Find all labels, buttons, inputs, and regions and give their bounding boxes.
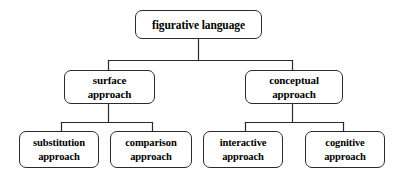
node-figurative-language-label: figurative language bbox=[152, 19, 245, 31]
node-substitution-approach: substitution approach bbox=[19, 131, 99, 168]
node-substitution-approach-label-line1: substitution bbox=[33, 136, 85, 150]
node-conceptual-approach-label-line1: conceptual bbox=[269, 73, 319, 87]
node-cognitive-approach: cognitive approach bbox=[305, 131, 385, 168]
node-surface-approach-label-line1: surface bbox=[93, 73, 127, 87]
node-comparison-approach-label-line1: comparison bbox=[125, 136, 177, 150]
node-cognitive-approach-label-line2: approach bbox=[324, 150, 366, 164]
node-substitution-approach-label-line2: approach bbox=[38, 150, 80, 164]
node-comparison-approach: comparison approach bbox=[110, 131, 192, 168]
node-interactive-approach: interactive approach bbox=[203, 131, 283, 168]
node-interactive-approach-label-line1: interactive bbox=[220, 136, 267, 150]
node-comparison-approach-label-line2: approach bbox=[130, 150, 172, 164]
node-conceptual-approach: conceptual approach bbox=[245, 70, 343, 104]
node-conceptual-approach-label-line2: approach bbox=[272, 87, 316, 101]
node-surface-approach: surface approach bbox=[64, 70, 155, 104]
node-interactive-approach-label-line2: approach bbox=[222, 150, 264, 164]
node-cognitive-approach-label-line1: cognitive bbox=[325, 136, 364, 150]
node-surface-approach-label-line2: approach bbox=[88, 87, 132, 101]
figurative-language-tree-diagram: figurative language surface approach con… bbox=[0, 0, 401, 176]
node-figurative-language: figurative language bbox=[135, 10, 262, 39]
